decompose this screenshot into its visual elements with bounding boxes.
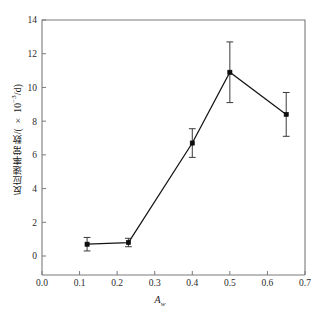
- x-tick-label: 0.2: [111, 278, 123, 288]
- y-tick-label: 0: [32, 251, 37, 261]
- data-point-marker: [85, 242, 89, 246]
- x-tick-label: 0.3: [149, 278, 161, 288]
- data-point-marker: [284, 112, 288, 116]
- data-point-marker: [228, 70, 232, 74]
- y-tick-label: 14: [28, 15, 38, 25]
- axis-frame: [42, 20, 305, 275]
- x-tick-label: 0.7: [299, 278, 311, 288]
- chart-figure: 0.00.10.20.30.40.50.60.702468101214 反应速率…: [0, 0, 320, 311]
- y-tick-label: 6: [32, 150, 37, 160]
- y-tick-label: 8: [32, 117, 37, 127]
- chart-canvas: 0.00.10.20.30.40.50.60.702468101214: [0, 0, 320, 311]
- data-series-line: [87, 72, 286, 244]
- x-tick-label: 0.4: [186, 278, 198, 288]
- x-tick-label: 0.1: [74, 278, 86, 288]
- y-tick-label: 2: [32, 218, 37, 228]
- y-tick-label: 10: [28, 83, 38, 93]
- x-tick-label: 0.6: [261, 278, 273, 288]
- y-tick-label: 4: [32, 184, 37, 194]
- data-point-marker: [126, 240, 130, 244]
- x-tick-label: 0.5: [224, 278, 236, 288]
- data-point-marker: [190, 141, 194, 145]
- x-tick-label: 0.0: [36, 278, 48, 288]
- y-tick-label: 12: [28, 49, 38, 59]
